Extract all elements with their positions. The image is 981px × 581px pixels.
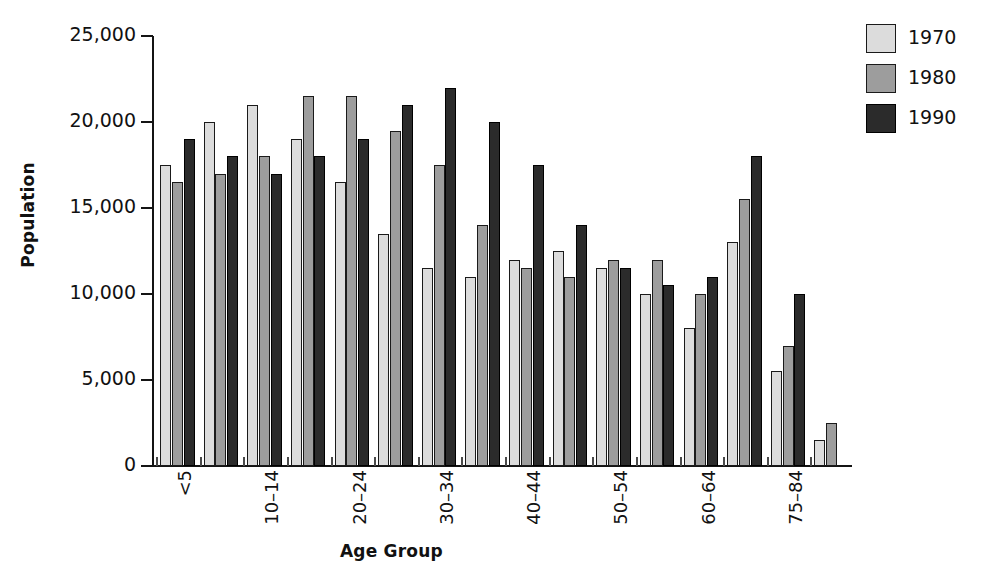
- bar-1990-50–54: [620, 268, 631, 466]
- bar-1970-<5: [160, 165, 171, 466]
- bar-1990-<5: [184, 139, 195, 466]
- bar-group: [459, 36, 503, 466]
- bar-1970-20–24: [335, 182, 346, 466]
- bar-group: [721, 36, 765, 466]
- legend-item-1980: 1980: [866, 62, 976, 102]
- bar-1990-35–39: [489, 122, 500, 466]
- bar-1980-15–19: [303, 96, 314, 466]
- bar-group: [808, 36, 852, 466]
- bar-1970-50–54: [596, 268, 607, 466]
- bar-1980-5–9: [215, 174, 226, 466]
- legend-label: 1970: [908, 26, 956, 48]
- bar-1970-85+: [814, 440, 825, 466]
- bar-1990-40–44: [533, 165, 544, 466]
- bar-1980-35–39: [477, 225, 488, 466]
- x-axis-tick-label: 10–14: [261, 470, 282, 560]
- x-axis-tick-label: 40–44: [523, 470, 544, 560]
- legend-label: 1980: [908, 66, 956, 88]
- legend-swatch-1980: [866, 64, 896, 93]
- bar-1990-5–9: [227, 156, 238, 466]
- bar-1980-75–84: [783, 346, 794, 466]
- bar-group: [198, 36, 242, 466]
- bar-1970-60–64: [684, 328, 695, 466]
- legend-swatch-1970: [866, 24, 896, 53]
- y-axis-tick-mark: [141, 121, 153, 123]
- group-separator-tick: [243, 457, 245, 466]
- bar-group: [329, 36, 373, 466]
- bar-series-container: [154, 36, 852, 466]
- bar-1980-65–74: [739, 199, 750, 466]
- bar-group: [416, 36, 460, 466]
- bar-1990-45–49: [576, 225, 587, 466]
- group-separator-tick: [636, 457, 638, 466]
- bar-1970-75–84: [771, 371, 782, 466]
- bar-group: [372, 36, 416, 466]
- bar-1980-<5: [172, 182, 183, 466]
- bar-group: [547, 36, 591, 466]
- bar-1970-45–49: [553, 251, 564, 466]
- y-axis-tick-label: 15,000: [36, 197, 136, 216]
- bar-group: [503, 36, 547, 466]
- bar-group: [678, 36, 722, 466]
- x-axis-title: Age Group: [340, 541, 443, 561]
- bar-group: [634, 36, 678, 466]
- group-separator-tick: [461, 457, 463, 466]
- bar-1980-55–59: [652, 260, 663, 466]
- bar-1990-55–59: [663, 285, 674, 466]
- bar-group: [154, 36, 198, 466]
- chart-legend: 197019801990: [866, 22, 976, 142]
- bar-1990-15–19: [314, 156, 325, 466]
- group-separator-tick: [723, 457, 725, 466]
- y-axis-tick-label: 10,000: [36, 283, 136, 302]
- y-axis-tick-mark: [141, 465, 153, 467]
- legend-swatch-1990: [866, 104, 896, 133]
- bar-1980-85+: [826, 423, 837, 466]
- x-axis-tick-label: 50–54: [610, 470, 631, 560]
- y-axis-tick-label: 0: [36, 455, 136, 474]
- x-axis-tick-labels: <510–1420–2430–3440–4450–5460–6475–84: [152, 470, 852, 545]
- x-axis-tick-label: 60–64: [698, 470, 719, 560]
- x-axis-tick-label: <5: [174, 470, 195, 560]
- y-axis-tick-label: 5,000: [36, 369, 136, 388]
- y-axis-tick-mark: [141, 379, 153, 381]
- group-separator-tick: [200, 457, 202, 466]
- group-separator-tick: [287, 457, 289, 466]
- y-axis-tick-mark: [141, 207, 153, 209]
- y-axis-tick-labels: 05,00010,00015,00020,00025,000: [24, 0, 136, 581]
- group-separator-tick: [549, 457, 551, 466]
- group-separator-tick: [505, 457, 507, 466]
- bar-1970-30–34: [422, 268, 433, 466]
- bar-group: [765, 36, 809, 466]
- bar-1980-50–54: [608, 260, 619, 466]
- bar-group: [241, 36, 285, 466]
- bar-1970-25–29: [378, 234, 389, 466]
- bar-1980-45–49: [564, 277, 575, 466]
- group-separator-tick: [680, 457, 682, 466]
- bar-group: [285, 36, 329, 466]
- bar-1980-20–24: [346, 96, 357, 466]
- y-axis-tick-mark: [141, 293, 153, 295]
- bar-1970-10–14: [247, 105, 258, 466]
- group-separator-tick: [156, 457, 158, 466]
- group-separator-tick: [767, 457, 769, 466]
- legend-item-1970: 1970: [866, 22, 976, 62]
- bar-1990-10–14: [271, 174, 282, 466]
- plot-area: [152, 36, 852, 466]
- bar-1980-40–44: [521, 268, 532, 466]
- bar-1990-30–34: [445, 88, 456, 466]
- bar-1990-75–84: [794, 294, 805, 466]
- bar-1980-10–14: [259, 156, 270, 466]
- bar-1990-65–74: [751, 156, 762, 466]
- group-separator-tick: [418, 457, 420, 466]
- bar-1990-60–64: [707, 277, 718, 466]
- y-axis-tick-label: 20,000: [36, 111, 136, 130]
- group-separator-tick: [592, 457, 594, 466]
- bar-1970-15–19: [291, 139, 302, 466]
- bar-1980-25–29: [390, 131, 401, 466]
- group-separator-tick: [810, 457, 812, 466]
- bar-1980-30–34: [434, 165, 445, 466]
- bar-group: [590, 36, 634, 466]
- legend-label: 1990: [908, 106, 956, 128]
- bar-1970-40–44: [509, 260, 520, 466]
- legend-item-1990: 1990: [866, 102, 976, 142]
